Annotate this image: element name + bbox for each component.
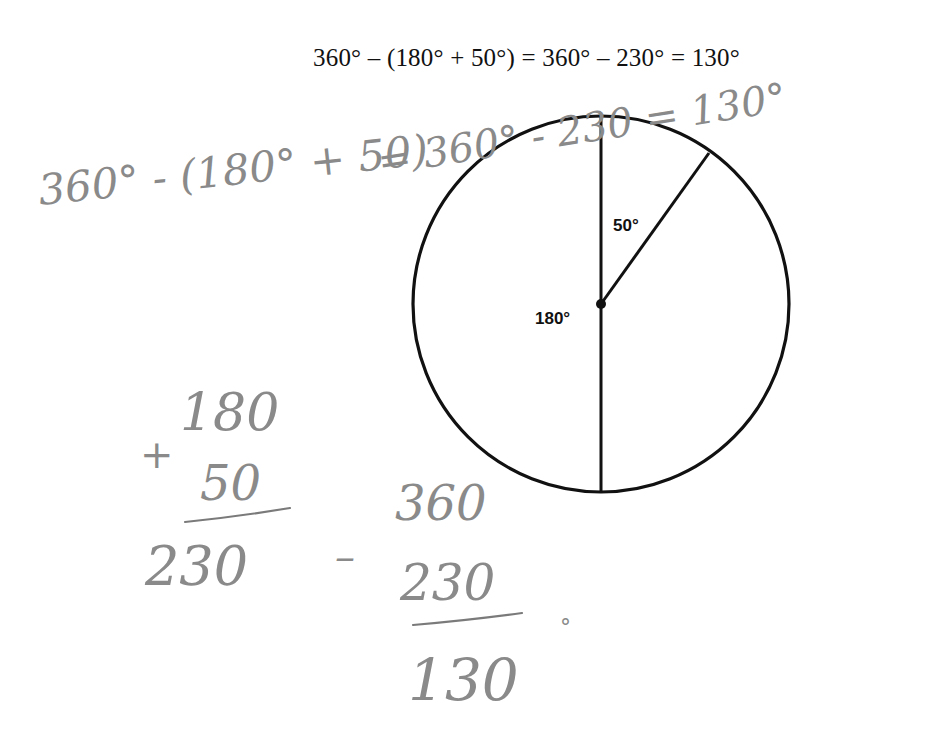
- handwritten-subtraction: 360 – 230 130 °: [335, 475, 571, 714]
- addend-1: 180: [180, 382, 279, 442]
- difference-line: [413, 613, 522, 625]
- angle-label-50: 50°: [613, 216, 639, 235]
- angle-diagram: 50° 180° 360° - (180° + 50) = 360° - 230…: [0, 0, 932, 739]
- handwritten-equation-right: = 360° - 230 = 130°: [374, 74, 789, 184]
- angle-label-180: 180°: [535, 309, 570, 328]
- handwritten-equation-left: 360° - (180° + 50): [36, 125, 430, 215]
- addend-2: 50: [200, 455, 261, 511]
- subtrahend: 230: [399, 554, 495, 612]
- center-point: [596, 299, 606, 309]
- subtraction-operator: –: [335, 533, 355, 579]
- addition-operator: +: [140, 431, 174, 477]
- sum: 230: [144, 535, 248, 598]
- degree-mark: °: [560, 615, 571, 640]
- difference: 130: [408, 646, 519, 714]
- minuend: 360: [395, 475, 487, 531]
- handwritten-addition: + 180 50 230: [140, 382, 290, 598]
